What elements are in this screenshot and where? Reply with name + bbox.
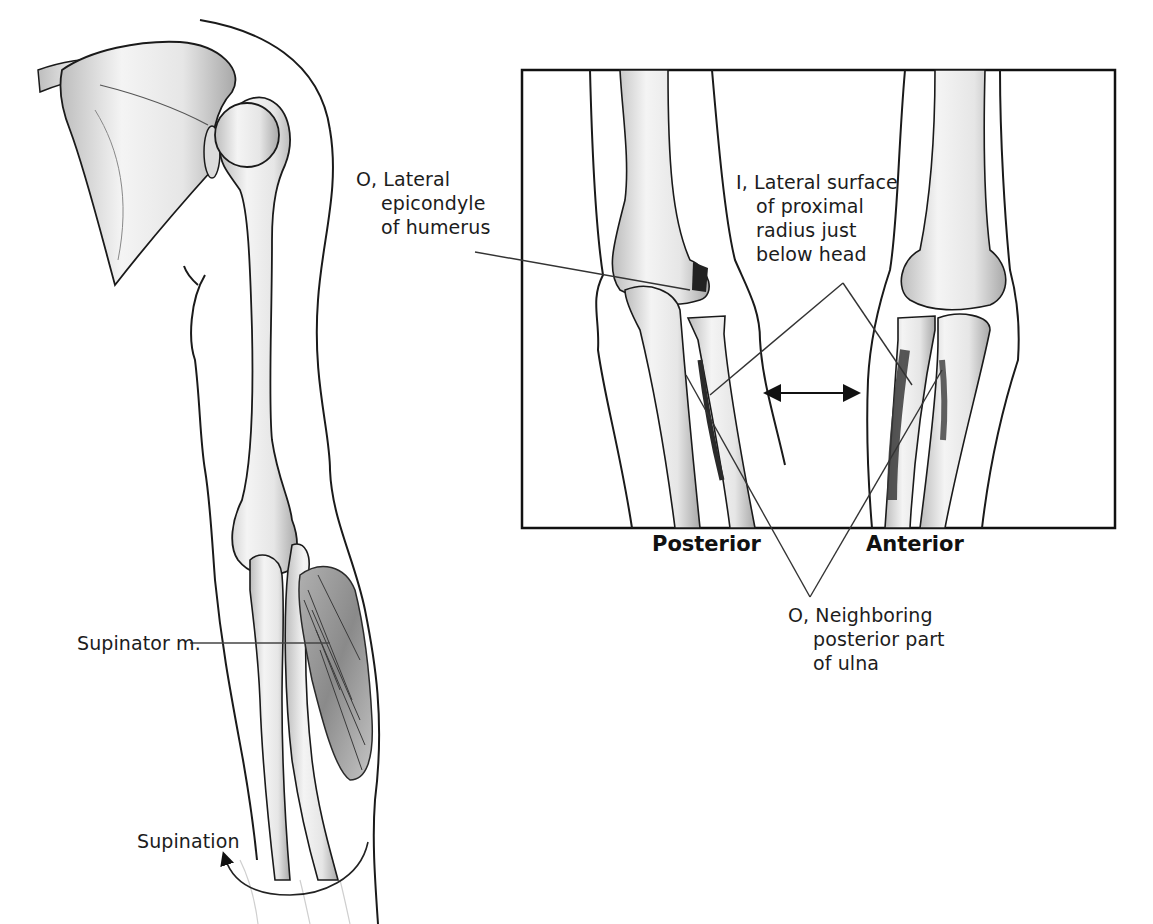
- ulna-leader-left: [686, 375, 810, 597]
- anterior-view-label: Anterior: [866, 532, 964, 556]
- left-arm-figure: [38, 20, 379, 924]
- humerus: [220, 97, 297, 575]
- inset-panel: [475, 70, 1115, 528]
- inset-frame: [522, 70, 1115, 528]
- insertion-line-2: of proximal: [736, 194, 898, 218]
- insertion-prefix: I,: [736, 171, 748, 193]
- ulna-prefix: O,: [788, 604, 809, 626]
- origin-label: O, Lateral epicondyle of humerus: [356, 167, 490, 239]
- insertion-leader-left: [710, 283, 843, 395]
- neighboring-ulna-label: O, Neighboring posterior part of ulna: [788, 603, 945, 675]
- ulna-line-2: posterior part: [788, 627, 945, 651]
- ulna-leader-right: [810, 370, 942, 597]
- ulna-line-1: Neighboring: [815, 604, 932, 626]
- anatomy-illustration: [0, 0, 1153, 924]
- origin-line-2: epicondyle: [356, 191, 490, 215]
- insertion-line-1: Lateral surface: [754, 171, 898, 193]
- supination-motion-label: Supination: [137, 829, 240, 853]
- posterior-view: [590, 70, 785, 528]
- origin-line-3: of humerus: [356, 215, 490, 239]
- origin-line-1: Lateral: [383, 168, 450, 190]
- supinator-muscle-label: Supinator m.: [77, 631, 201, 655]
- ulna: [250, 555, 290, 880]
- posterior-view-label: Posterior: [652, 532, 761, 556]
- origin-prefix: O,: [356, 168, 377, 190]
- insertion-line-4: below head: [736, 242, 898, 266]
- ulna-line-3: of ulna: [788, 651, 945, 675]
- insertion-label: I, Lateral surface of proximal radius ju…: [736, 170, 898, 266]
- insertion-line-3: radius just: [736, 218, 898, 242]
- supination-arrow: [225, 842, 368, 895]
